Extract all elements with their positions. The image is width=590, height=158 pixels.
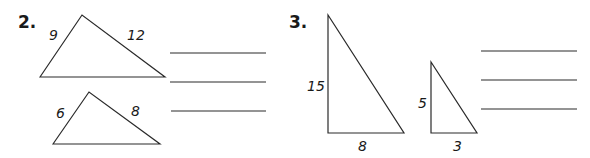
side-label: 8 [358, 138, 367, 154]
large-triangle [40, 15, 165, 77]
side-label: 6 [56, 105, 65, 121]
small-right-triangle [431, 62, 477, 133]
large-right-triangle [328, 15, 404, 133]
problem-3: 3. 15 8 5 3 [289, 12, 577, 154]
small-triangle [53, 92, 160, 144]
side-label: 8 [131, 103, 140, 119]
problem-2: 2. 9 12 6 8 [18, 12, 266, 144]
side-label: 15 [307, 78, 325, 94]
side-label: 9 [49, 27, 58, 43]
side-label: 3 [453, 138, 462, 154]
problem-number: 3. [289, 12, 307, 32]
problem-number: 2. [18, 12, 36, 32]
worksheet: 2. 9 12 6 8 3. 15 8 5 3 [0, 0, 590, 158]
side-label: 5 [418, 95, 427, 111]
side-label: 12 [127, 27, 145, 43]
